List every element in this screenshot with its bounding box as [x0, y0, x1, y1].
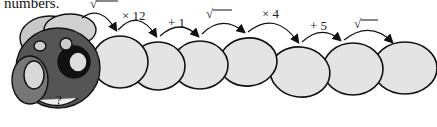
op-label-5: × 4	[262, 6, 280, 21]
op-label-2: × 12	[122, 8, 146, 23]
body-segments	[92, 35, 437, 101]
op-label-1: √	[90, 0, 98, 11]
op-label-3: + 1	[168, 15, 185, 30]
segment-1	[92, 36, 148, 88]
arrow-op-4	[202, 23, 244, 34]
segment-6	[323, 43, 383, 95]
caterpillar-diagram: ? √ × 12 + 1 √ × 4 + 5 √	[0, 0, 437, 127]
op-label-4: √	[206, 6, 214, 21]
segment-5	[267, 43, 333, 101]
head-question-mark: ?	[56, 92, 62, 107]
op-label-6: + 5	[310, 18, 327, 33]
operation-labels: √ × 12 + 1 √ × 4 + 5 √	[90, 0, 378, 33]
arrow-op-6	[302, 32, 340, 42]
op-label-7: √	[354, 16, 362, 31]
arrow-op-7	[344, 30, 392, 42]
